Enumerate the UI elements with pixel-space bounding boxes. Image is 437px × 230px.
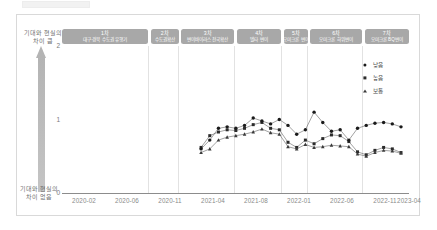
legend-item-보통[interactable]: 보통: [360, 84, 406, 97]
series-높음: [200, 121, 403, 156]
plot-area: 기대와 현실의 차이 큼 기대와 현실의 차이 없음 2 1 0 1차대구·경북…: [0, 0, 437, 230]
legend-label: 낮음: [373, 61, 383, 69]
series-낮음: [199, 110, 402, 150]
square-icon: [360, 73, 370, 83]
triangle-icon: [360, 86, 370, 96]
chart-screenshot: 기대와 현실의 차이 큼 기대와 현실의 차이 없음 2 1 0 1차대구·경북…: [0, 0, 437, 230]
cross-icon: [360, 60, 370, 70]
chart-legend: 낮음높음보통: [360, 58, 406, 97]
data-series-layer: [0, 0, 437, 230]
legend-label: 보통: [373, 87, 383, 95]
legend-item-낮음[interactable]: 낮음: [360, 58, 406, 71]
legend-item-높음[interactable]: 높음: [360, 71, 406, 84]
legend-label: 높음: [373, 74, 383, 82]
